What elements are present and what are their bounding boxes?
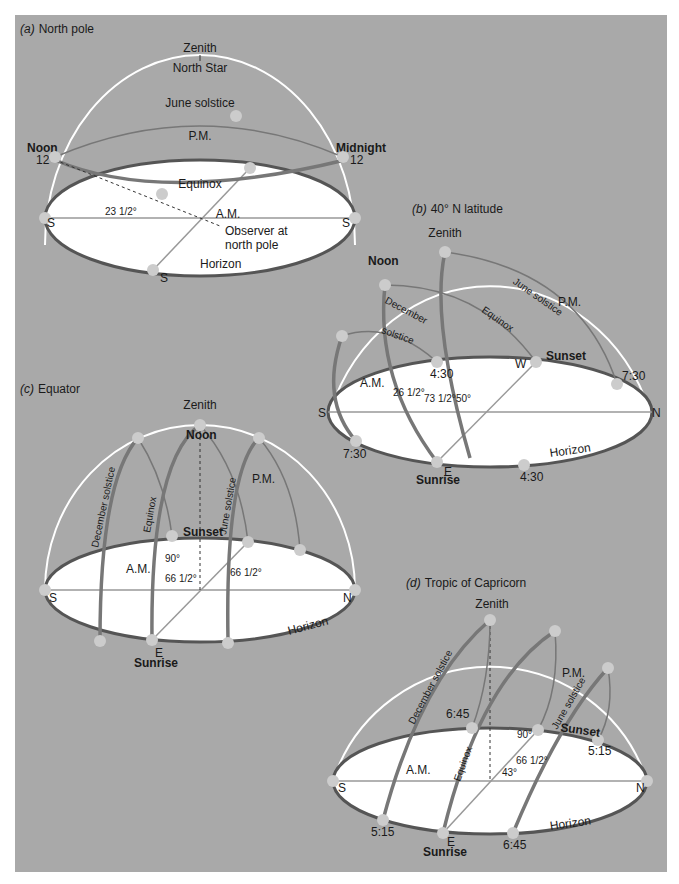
south-label: S bbox=[47, 216, 55, 230]
zenith-label: Zenith bbox=[183, 41, 216, 55]
am-label: A.M. bbox=[360, 376, 385, 390]
east-label: E bbox=[155, 646, 163, 660]
south-label: S bbox=[160, 271, 168, 285]
june-solstice-label: June solstice bbox=[165, 96, 235, 110]
angle-26-label: 26 1/2° bbox=[393, 387, 425, 398]
time-label: 6:45 bbox=[503, 838, 527, 852]
south-label: S bbox=[342, 216, 350, 230]
sunrise-label: Sunrise bbox=[416, 473, 460, 487]
equinox-label: Equinox bbox=[141, 496, 158, 534]
panel-d-tropic-of-capricorn: (d)Tropic of Capricorn Zenith December s… bbox=[327, 576, 653, 859]
time-label: 5:15 bbox=[588, 744, 612, 758]
south-label: S bbox=[318, 406, 326, 420]
am-label: A.M. bbox=[216, 207, 241, 221]
angle-43-label: 43° bbox=[502, 767, 517, 778]
north-label: N bbox=[636, 781, 645, 795]
noon-hour: 12 bbox=[36, 153, 50, 167]
panel-c-title: (c)Equator bbox=[20, 382, 80, 396]
time-label: 4:30 bbox=[430, 367, 454, 381]
angle-73-label: 73 1/2° bbox=[424, 393, 456, 404]
equinox-label: Equinox bbox=[178, 177, 221, 191]
north-label: N bbox=[343, 591, 352, 605]
angle-90-label: 90° bbox=[517, 729, 532, 740]
east-label: E bbox=[444, 465, 452, 479]
horizon-label: Horizon bbox=[200, 257, 241, 271]
zenith-label: Zenith bbox=[183, 398, 216, 412]
east-label: E bbox=[447, 835, 455, 849]
panel-d-title: (d)Tropic of Capricorn bbox=[406, 576, 526, 590]
west-label: W bbox=[515, 357, 527, 371]
time-label: 5:15 bbox=[371, 825, 395, 839]
zenith-label: Zenith bbox=[428, 226, 461, 240]
observer-label: Observer at bbox=[225, 224, 288, 238]
angle-66-label: 66 1/2° bbox=[165, 573, 197, 584]
am-label: A.M. bbox=[126, 562, 151, 576]
sun-paths-diagram: (a)North pole Zenith North Star June sol… bbox=[0, 0, 679, 884]
time-label: 7:30 bbox=[622, 369, 646, 383]
angle-66-label: 66 1/2° bbox=[230, 567, 262, 578]
south-label: S bbox=[49, 591, 57, 605]
pm-label: P.M. bbox=[252, 472, 275, 486]
pm-label: P.M. bbox=[562, 666, 585, 680]
noon-label: Noon bbox=[186, 428, 217, 442]
panel-a-north-pole: (a)North pole Zenith North Star June sol… bbox=[20, 22, 386, 285]
panel-b-title: (b)40° N latitude bbox=[412, 202, 503, 216]
angle-label: 23 1/2° bbox=[105, 206, 137, 217]
sunset-label: Sunset bbox=[183, 525, 223, 539]
panel-a-title: (a)North pole bbox=[20, 22, 94, 36]
sunset-label: Sunset bbox=[546, 349, 586, 363]
midnight-hour: 12 bbox=[350, 153, 364, 167]
time-label: 6:45 bbox=[446, 707, 470, 721]
angle-90-label: 90° bbox=[165, 553, 180, 564]
zenith-label: Zenith bbox=[475, 597, 508, 611]
north-label: N bbox=[652, 406, 661, 420]
panel-b-40n: (b)40° N latitude Zenith Noon June solst… bbox=[318, 202, 661, 487]
angle-66-label: 66 1/2° bbox=[516, 755, 548, 766]
angle-50-label: 50° bbox=[456, 393, 471, 404]
observer-label-2: north pole bbox=[225, 238, 279, 252]
equinox-label: Equinox bbox=[480, 304, 516, 334]
pm-label: P.M. bbox=[188, 129, 211, 143]
panel-c-equator: (c)Equator Zenith Noon December solstice… bbox=[20, 382, 361, 670]
south-label: S bbox=[338, 781, 346, 795]
time-label: 7:30 bbox=[343, 447, 367, 461]
north-star-label: North Star bbox=[173, 61, 228, 75]
december-solstice-label: December solstice bbox=[89, 465, 117, 548]
noon-label: Noon bbox=[368, 254, 399, 268]
pm-label: P.M. bbox=[558, 295, 581, 309]
am-label: A.M. bbox=[406, 763, 431, 777]
sunrise-label: Sunrise bbox=[423, 845, 467, 859]
time-label: 4:30 bbox=[520, 470, 544, 484]
